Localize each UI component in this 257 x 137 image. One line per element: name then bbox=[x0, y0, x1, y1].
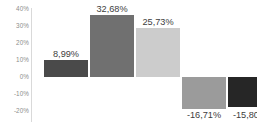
bar-3[interactable] bbox=[136, 28, 180, 77]
bar-1[interactable] bbox=[44, 60, 88, 77]
bar-label-4: -16,71% bbox=[178, 110, 230, 120]
plot-area: 8,99% 32,68% 25,73% -16,71% -15,80% bbox=[32, 8, 257, 122]
bar-label-5: -15,80% bbox=[224, 110, 257, 120]
y-tick-label-10: 10% bbox=[3, 56, 29, 63]
y-tick-label-30: 30% bbox=[3, 22, 29, 29]
y-tick-label-neg10: -10% bbox=[3, 90, 29, 97]
bar-5[interactable] bbox=[228, 77, 257, 107]
bar-label-2: 32,68% bbox=[86, 4, 138, 14]
bar-2[interactable] bbox=[90, 15, 134, 77]
y-tick-label-20: 20% bbox=[3, 39, 29, 46]
y-tick-label-40: 40% bbox=[3, 5, 29, 12]
bar-4[interactable] bbox=[182, 77, 226, 109]
y-axis-tick-labels: 40% 30% 20% 10% 0% -10% -20% bbox=[0, 0, 29, 137]
y-tick-label-neg20: -20% bbox=[3, 107, 29, 114]
y-tick-label-0: 0% bbox=[3, 73, 29, 80]
bar-chart: 40% 30% 20% 10% 0% -10% -20% 8,99% 32,68… bbox=[0, 0, 257, 137]
bar-label-3: 25,73% bbox=[132, 17, 184, 27]
bar-label-1: 8,99% bbox=[40, 49, 92, 59]
